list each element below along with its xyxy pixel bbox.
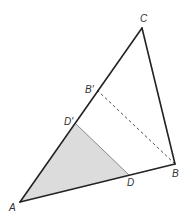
label-D: D — [127, 177, 134, 188]
label-B-prime: B' — [85, 84, 95, 95]
label-B: B — [172, 168, 179, 179]
diagram-svg: C B' D' B D A — [0, 0, 191, 218]
shaded-triangle-AD'D — [20, 124, 129, 202]
label-A: A — [8, 202, 16, 213]
dashed-segment-B'B — [97, 90, 175, 164]
side-CB — [142, 28, 175, 164]
geometry-diagram: C B' D' B D A — [0, 0, 191, 218]
label-C: C — [140, 13, 148, 24]
label-D-prime: D' — [64, 116, 74, 127]
